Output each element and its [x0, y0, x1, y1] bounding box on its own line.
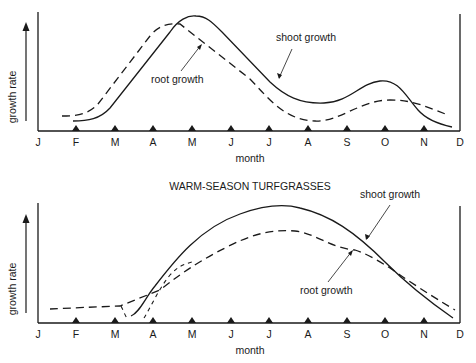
bottom-month-label: F [73, 328, 79, 340]
top-month-label: A [304, 136, 311, 148]
bottom-y-label: growth rate [6, 263, 18, 316]
bottom-shoot-annotation: shoot growth [360, 188, 420, 200]
bottom-tick-markers [72, 317, 428, 323]
bottom-month-label: S [343, 328, 350, 340]
top-month-labels: J F M A M J J A S O N D [35, 136, 464, 148]
bottom-arrow-head-icon [23, 214, 30, 223]
bottom-shoot-leader-line [367, 205, 390, 239]
bottom-chart: WARM-SEASON TURFGRASSES growth rate J F … [6, 180, 464, 356]
top-month-label: S [343, 136, 350, 148]
top-root-leader-line [181, 45, 201, 71]
bottom-root-annotation: root growth [300, 284, 353, 296]
top-month-label: M [111, 136, 120, 148]
top-chart: growth rate J F M A M J J A S O N [6, 12, 464, 164]
top-shoot-annotation: shoot growth [276, 31, 336, 43]
bottom-shoot-leader-arrow-icon [365, 234, 370, 240]
top-shoot-growth-line [73, 16, 452, 127]
top-root-annotation: root growth [151, 73, 204, 85]
top-tick-markers [72, 125, 428, 131]
top-month-label: J [266, 136, 271, 148]
top-month-label: J [35, 136, 40, 148]
top-month-label: D [456, 136, 464, 148]
bottom-month-label: M [111, 328, 120, 340]
top-y-label: growth rate [6, 71, 18, 124]
bottom-month-label: M [188, 328, 197, 340]
top-root-growth-line [62, 24, 448, 121]
bottom-root-growth-line [50, 231, 455, 310]
top-month-label: O [381, 136, 389, 148]
bottom-transition-dotted-line [121, 262, 192, 319]
top-month-label: A [149, 136, 156, 148]
top-shoot-leader-line [279, 49, 292, 78]
top-month-label: F [73, 136, 79, 148]
bottom-month-label: O [381, 328, 389, 340]
top-month-label: M [188, 136, 197, 148]
bottom-month-label: A [149, 328, 156, 340]
bottom-shoot-growth-line [131, 206, 453, 318]
bottom-month-label: J [35, 328, 40, 340]
bottom-month-label: A [304, 328, 311, 340]
bottom-root-leader-line [328, 251, 352, 282]
top-month-label: J [228, 136, 233, 148]
bottom-month-label: J [228, 328, 233, 340]
top-arrow-head-icon [23, 22, 30, 31]
top-month-label: N [420, 136, 428, 148]
bottom-month-label: D [456, 328, 464, 340]
bottom-x-label: month [235, 344, 264, 356]
growth-charts: growth rate J F M A M J J A S O N [0, 0, 476, 363]
bottom-month-labels: J F M A M J J A S O N D [35, 328, 464, 340]
bottom-chart-title: WARM-SEASON TURFGRASSES [169, 180, 331, 192]
bottom-month-label: N [420, 328, 428, 340]
top-x-label: month [235, 152, 264, 164]
bottom-month-label: J [266, 328, 271, 340]
